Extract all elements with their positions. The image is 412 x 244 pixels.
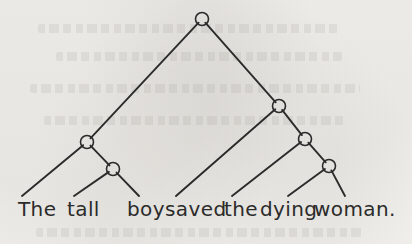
tree-node-left-sub	[107, 163, 120, 176]
tree-edge	[90, 23, 198, 139]
tree-node-right-sub	[299, 133, 312, 146]
tree-edge	[331, 170, 345, 196]
sentence-word-woman: woman.	[314, 197, 396, 221]
tree-edge	[176, 109, 275, 196]
tree-edge	[74, 172, 109, 196]
sentence-word-dying: dying	[260, 197, 317, 221]
sentence-word-boy: boy	[127, 197, 165, 221]
tree-edges-layer	[22, 23, 345, 196]
tree-node-root	[196, 13, 209, 26]
tree-nodes-layer	[81, 13, 336, 176]
sentence-word-the: The	[18, 197, 56, 221]
tree-edge	[116, 173, 139, 196]
tree-node-left-branch	[81, 136, 94, 149]
sentence-word-saved: saved	[165, 197, 227, 221]
tree-edge	[288, 169, 325, 196]
tree-edge	[232, 142, 301, 196]
sentence-line: Thetallboysavedthedyingwoman.	[0, 197, 412, 227]
sentence-word-tall: tall	[67, 197, 100, 221]
tree-edge	[282, 110, 302, 135]
tree-node-right-branch	[273, 100, 286, 113]
tree-edge	[22, 145, 83, 196]
syntax-tree-figure: Thetallboysavedthedyingwoman.	[0, 0, 412, 244]
sentence-word-the: the	[224, 197, 258, 221]
tree-edge	[90, 146, 109, 166]
tree-edge	[205, 23, 275, 103]
tree-node-right-sub-lower	[323, 160, 336, 173]
tree-edge	[308, 143, 325, 163]
